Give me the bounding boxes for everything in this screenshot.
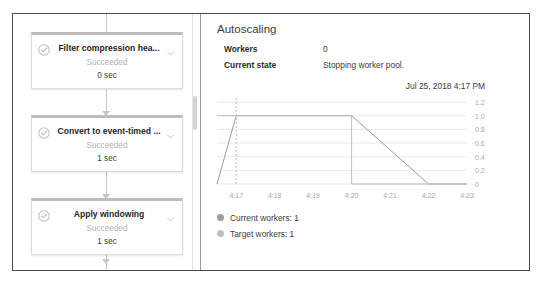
app-frame: Filter compression hea... Succeeded 0 se… [12,13,530,271]
step-card-title: Filter compression hea... [54,40,166,56]
step-card-title: Convert to event-timed ... [54,123,166,139]
legend-label: Target workers: 1 [230,229,294,239]
pipeline-step-card[interactable]: Apply windowing Succeeded 1 sec [31,198,183,255]
svg-text:4:23: 4:23 [460,192,474,199]
check-circle-icon [38,42,50,54]
step-card-header: Convert to event-timed ... [32,123,182,139]
svg-text:4:18: 4:18 [268,192,282,199]
check-circle-icon [38,125,50,137]
step-card-status: Succeeded [32,57,182,69]
svg-text:0.8: 0.8 [475,126,485,133]
svg-text:0.4: 0.4 [475,154,485,161]
svg-text:1.2: 1.2 [475,99,485,106]
detail-row-current-state: Current state Stopping worker pool. [215,60,515,70]
detail-key: Current state [215,60,323,70]
page-title: Autoscaling [217,23,515,35]
legend-label: Current workers: 1 [230,213,299,223]
chart-legend: Current workers: 1 Target workers: 1 [215,211,515,240]
step-card-header: Apply windowing [32,206,182,222]
chart-svg: 00.20.40.60.81.01.2 4:174:184:194:204:21… [215,96,511,204]
svg-text:0.2: 0.2 [475,167,485,174]
autoscaling-detail-panel: Autoscaling Workers 0 Current state Stop… [201,14,529,270]
svg-text:4:21: 4:21 [383,192,397,199]
chart-series-group [217,116,467,184]
pipeline-scrollbar-thumb[interactable] [193,96,197,130]
legend-item-current-workers[interactable]: Current workers: 1 [217,211,515,224]
pipeline-graph-panel[interactable]: Filter compression hea... Succeeded 0 se… [13,14,201,270]
svg-text:0: 0 [475,181,479,188]
chart-y-axis-labels: 00.20.40.60.81.01.2 [475,99,485,188]
detail-value: 0 [323,44,328,54]
step-card-status: Succeeded [32,223,182,235]
chevron-down-icon[interactable] [166,127,175,136]
svg-text:4:20: 4:20 [345,192,359,199]
autoscaling-chart[interactable]: 00.20.40.60.81.01.2 4:174:184:194:204:21… [215,96,511,204]
screenshot-root: Filter compression hea... Succeeded 0 se… [0,0,542,284]
pipeline-step-card[interactable]: Filter compression hea... Succeeded 0 se… [31,32,183,89]
svg-text:4:19: 4:19 [306,192,320,199]
legend-color-swatch [217,230,224,237]
legend-item-target-workers[interactable]: Target workers: 1 [217,227,515,240]
step-card-header: Filter compression hea... [32,40,182,56]
pipeline-connector-arrow [102,259,110,264]
svg-text:1.0: 1.0 [475,113,485,120]
pipeline-step-card[interactable]: Convert to event-timed ... Succeeded 1 s… [31,115,183,172]
step-card-duration: 1 sec [32,153,182,165]
step-card-duration: 0 sec [32,70,182,82]
svg-text:4:17: 4:17 [229,192,243,199]
step-card-duration: 1 sec [32,236,182,248]
pipeline-scrollbar[interactable] [192,14,199,270]
detail-value: Stopping worker pool. [323,60,404,70]
chevron-down-icon[interactable] [166,44,175,53]
chevron-down-icon[interactable] [166,210,175,219]
legend-color-swatch [217,214,224,221]
check-circle-icon [38,208,50,220]
chart-x-axis-labels: 4:174:184:194:204:214:224:23 [229,192,474,199]
svg-text:4:22: 4:22 [422,192,436,199]
step-card-status: Succeeded [32,140,182,152]
step-card-title: Apply windowing [54,206,166,222]
svg-text:0.6: 0.6 [475,140,485,147]
detail-key: Workers [215,44,323,54]
chart-gridlines [217,102,467,184]
chart-timestamp: Jul 25, 2018 4:17 PM [215,81,485,91]
detail-row-workers: Workers 0 [215,44,515,54]
